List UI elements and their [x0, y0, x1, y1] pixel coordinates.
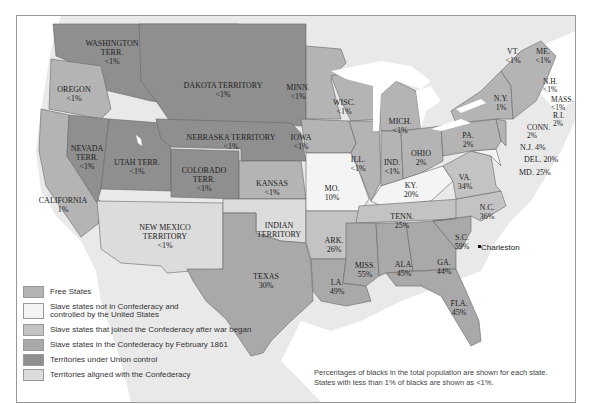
- label-maryland: MD. 25%: [519, 169, 551, 177]
- label-south-carolina: S.C.59%: [455, 233, 470, 251]
- label-florida: FLA.45%: [450, 299, 467, 317]
- label-connecticut: CONN.2%: [527, 124, 550, 140]
- legend-item-joined-after: Slave states that joined the Confederacy…: [23, 323, 251, 337]
- label-virginia: VA.34%: [458, 173, 473, 191]
- label-new-mexico: NEW MEXICOTERRITORY<1%: [139, 223, 191, 250]
- label-ohio: OHIO2%: [411, 149, 431, 167]
- label-minnesota: MINN.<1%: [286, 83, 309, 101]
- map-note: Percentages of blacks in the total popul…: [314, 368, 547, 388]
- legend-item-confederate-territory: Territories aligned with the Confederacy: [23, 368, 251, 382]
- label-arkansas: ARK.26%: [325, 236, 344, 254]
- legend-item-union-territory: Territories under Union control: [23, 353, 251, 367]
- label-charleston: Charleston: [481, 243, 520, 252]
- label-kentucky: KY.20%: [404, 181, 419, 199]
- label-rhode-island: R.I.2%: [553, 112, 564, 128]
- label-iowa: IOWA<1%: [291, 133, 312, 151]
- label-maine: ME.<1%: [535, 47, 550, 65]
- label-kansas: KANSAS<1%: [256, 179, 288, 197]
- label-north-carolina: N.C.36%: [479, 203, 494, 221]
- label-indian-territory: INDIANTERRITORY: [257, 221, 301, 239]
- legend-swatch: [23, 303, 44, 319]
- label-illinois: ILL.<1%: [350, 155, 365, 173]
- label-new-jersey: N.J. 4%: [520, 144, 546, 152]
- label-michigan: MICH.<1%: [389, 117, 412, 135]
- label-massachusetts: MASS.<1%: [551, 96, 573, 112]
- legend-item-border-slave: Slave states not in Confederacy andcontr…: [23, 300, 251, 322]
- label-vermont: VT.<1%: [505, 47, 520, 65]
- legend-swatch: [23, 354, 44, 366]
- label-tennessee: TENN.25%: [390, 212, 413, 230]
- label-delaware: DEL. 20%: [524, 156, 558, 164]
- label-california: CALIFORNIA1%: [39, 196, 87, 214]
- label-wisconsin: WISC.<1%: [333, 98, 355, 116]
- label-indiana: IND.<1%: [384, 158, 400, 176]
- legend-item-confederacy-1861: Slave states in the Confederacy by Febru…: [23, 338, 251, 352]
- label-georgia: GA.44%: [437, 258, 452, 276]
- label-new-york: N.Y.1%: [494, 94, 509, 112]
- label-pennsylvania: PA.2%: [462, 131, 474, 149]
- legend-swatch: [23, 339, 44, 351]
- label-utah: UTAH TERR.<1%: [114, 158, 160, 176]
- label-mississippi: MISS.55%: [355, 261, 376, 279]
- label-texas: TEXAS30%: [253, 272, 279, 290]
- label-nevada: NEVADATERR.<1%: [71, 144, 104, 171]
- region-dakota: [139, 24, 306, 126]
- legend-swatch: [23, 286, 44, 298]
- label-missouri: MO.10%: [325, 184, 340, 202]
- label-new-hampshire: N.H.<1%: [543, 78, 558, 94]
- label-dakota: DAKOTA TERRITORY<1%: [184, 81, 263, 99]
- legend-item-free: Free States: [23, 285, 251, 299]
- label-colorado: COLORADOTERR.<1%: [182, 166, 226, 193]
- label-alabama: ALA.45%: [395, 260, 413, 278]
- label-oregon: OREGON<1%: [57, 85, 90, 103]
- label-nebraska: NEBRASKA TERRITORY<1%: [187, 133, 276, 151]
- label-washington: WASHINGTONTERR.<1%: [85, 39, 138, 66]
- legend-swatch: [23, 324, 44, 336]
- label-louisiana: LA.49%: [330, 278, 345, 296]
- map-legend: Free States Slave states not in Confeder…: [23, 285, 251, 383]
- legend-swatch: [23, 369, 44, 381]
